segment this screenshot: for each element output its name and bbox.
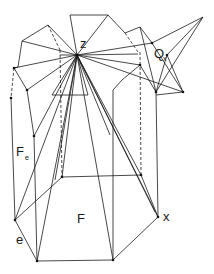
label-x: x	[163, 209, 170, 224]
label-Fe-sub: e	[25, 154, 29, 161]
label-F: F	[77, 211, 85, 226]
label-Fe: F	[16, 144, 24, 159]
label-z: z	[80, 36, 87, 51]
label-e: e	[16, 232, 23, 247]
label-Q-sub: x	[163, 55, 167, 62]
polyhedral-diagram: z Q x F e F x e	[0, 0, 214, 274]
